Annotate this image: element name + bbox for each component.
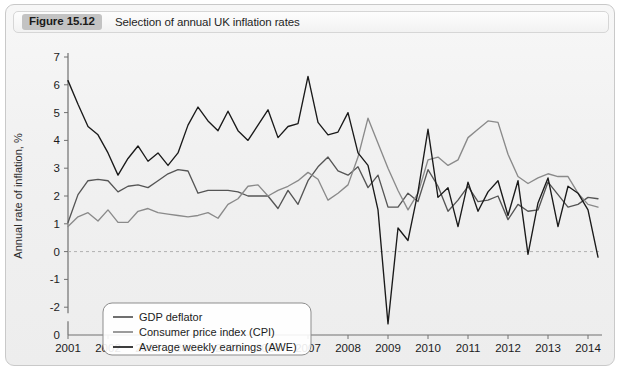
- axis-lines-group: [68, 53, 602, 335]
- y-axis-title: Annual rate of inflation, %: [12, 133, 24, 259]
- series-line: [68, 76, 598, 323]
- data-series-group: [68, 76, 598, 323]
- y-tick-label: 1: [54, 218, 60, 230]
- figure-number-badge: Figure 15.12: [22, 14, 102, 31]
- x-tick-label: 2011: [456, 342, 481, 354]
- inflation-line-chart: Annual rate of inflation, % 76543210-1-2…: [6, 35, 616, 365]
- series-line: [68, 157, 598, 222]
- x-tick-label: 2012: [495, 342, 521, 354]
- x-tick-label: 2010: [415, 342, 441, 354]
- y-tick-label: 2: [54, 190, 60, 202]
- y-tick-label: 5: [54, 107, 60, 119]
- y-tick-label: 3: [54, 162, 60, 174]
- x-tick-label: 2009: [375, 342, 401, 354]
- figure-caption-text: Selection of annual UK inflation rates: [115, 16, 300, 28]
- y-tick-label: 7: [54, 51, 60, 63]
- x-tick-label: 2001: [55, 342, 81, 354]
- legend-item-label: Average weekly earnings (AWE): [139, 341, 297, 353]
- y-axis-title-group: Annual rate of inflation, %: [12, 133, 24, 259]
- figure-caption-bar: Figure 15.12 Selection of annual UK infl…: [13, 11, 609, 33]
- x-tick-label: 2013: [535, 342, 561, 354]
- y-tick-label: -2: [50, 301, 60, 313]
- chart-plot-area: Annual rate of inflation, % 76543210-1-2…: [6, 35, 616, 365]
- y-axis-break-label: 0: [54, 329, 60, 341]
- y-tick-label: 0: [54, 246, 60, 258]
- figure-card: Figure 15.12 Selection of annual UK infl…: [5, 4, 615, 366]
- legend-item-label: Consumer price index (CPI): [139, 326, 275, 338]
- legend-item-label: GDP deflator: [139, 311, 203, 323]
- chart-legend: GDP deflatorConsumer price index (CPI)Av…: [103, 303, 311, 355]
- y-axis-ticks-group: 76543210-1-20: [50, 51, 68, 341]
- series-line: [68, 118, 598, 226]
- y-tick-label: -1: [50, 273, 60, 285]
- x-tick-label: 2014: [575, 342, 601, 354]
- y-tick-label: 6: [54, 79, 60, 91]
- y-tick-label: 4: [54, 134, 61, 146]
- x-tick-label: 2008: [335, 342, 361, 354]
